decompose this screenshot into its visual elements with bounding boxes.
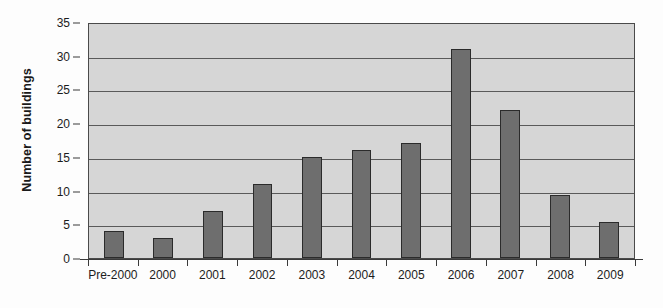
- y-tick-mark: [73, 124, 80, 125]
- x-tick-label: 2005: [386, 268, 436, 282]
- x-tick-label: 2009: [585, 268, 635, 282]
- y-tick-mark: [73, 90, 80, 91]
- x-tick-mark: [187, 259, 188, 266]
- x-tick-mark: [337, 259, 338, 266]
- x-axis-tick-labels: Pre-200020002001200220032004200520062007…: [88, 268, 635, 282]
- x-tick-mark: [585, 259, 586, 266]
- x-tick-label: 2004: [337, 268, 387, 282]
- x-tick-label: 2000: [138, 268, 188, 282]
- x-tick-mark: [386, 259, 387, 266]
- y-tick-mark: [73, 56, 80, 57]
- bar-chart-figure: Number of buildings 05101520253035 Pre-2…: [0, 0, 663, 308]
- y-tick-label: 35: [57, 16, 70, 30]
- y-tick-label: 5: [63, 218, 70, 232]
- x-tick-mark: [287, 259, 288, 266]
- x-tick-label: 2008: [536, 268, 586, 282]
- bar[interactable]: [104, 231, 124, 258]
- bar-slot: [238, 24, 288, 258]
- bar[interactable]: [253, 184, 273, 258]
- bar[interactable]: [451, 49, 471, 258]
- bars-group: [89, 24, 634, 258]
- bar[interactable]: [550, 195, 570, 258]
- y-axis-title: Number of buildings: [14, 0, 40, 260]
- bar[interactable]: [599, 222, 619, 258]
- y-axis-tick-labels: 05101520253035: [40, 17, 80, 259]
- y-tick-mark: [73, 225, 80, 226]
- y-tick-label: 0: [63, 252, 70, 266]
- x-tick-label: 2002: [237, 268, 287, 282]
- bar-slot: [386, 24, 436, 258]
- y-tick-label: 15: [57, 151, 70, 165]
- x-tick-mark: [138, 259, 139, 266]
- bar-slot: [188, 24, 238, 258]
- bar[interactable]: [352, 150, 372, 258]
- x-tick-label: Pre-2000: [88, 268, 138, 282]
- x-tick-mark: [536, 259, 537, 266]
- x-tick-label: 2007: [486, 268, 536, 282]
- y-tick-label: 30: [57, 50, 70, 64]
- y-tick-label: 10: [57, 185, 70, 199]
- plot-area: [88, 23, 635, 259]
- bar-slot: [139, 24, 189, 258]
- x-tick-label: 2006: [436, 268, 486, 282]
- y-tick-mark: [73, 191, 80, 192]
- bar-slot: [287, 24, 337, 258]
- y-tick-label: 20: [57, 117, 70, 131]
- x-axis-ticks: [88, 259, 635, 266]
- bar[interactable]: [302, 157, 322, 258]
- y-tick-mark: [73, 259, 80, 260]
- bar-slot: [535, 24, 585, 258]
- x-tick-mark: [635, 259, 636, 266]
- bar[interactable]: [153, 238, 173, 258]
- x-tick-mark: [436, 259, 437, 266]
- bar-slot: [89, 24, 139, 258]
- bar-slot: [485, 24, 535, 258]
- y-tick-mark: [73, 23, 80, 24]
- y-tick-mark: [73, 157, 80, 158]
- x-tick-label: 2003: [287, 268, 337, 282]
- bar[interactable]: [500, 110, 520, 258]
- bar-slot: [337, 24, 387, 258]
- x-tick-mark: [237, 259, 238, 266]
- bar-slot: [436, 24, 486, 258]
- x-tick-label: 2001: [187, 268, 237, 282]
- bar[interactable]: [203, 211, 223, 258]
- x-tick-mark: [486, 259, 487, 266]
- y-axis-title-text: Number of buildings: [20, 68, 34, 191]
- bar[interactable]: [401, 143, 421, 258]
- bar-slot: [584, 24, 634, 258]
- y-tick-label: 25: [57, 83, 70, 97]
- x-tick-mark: [88, 259, 89, 266]
